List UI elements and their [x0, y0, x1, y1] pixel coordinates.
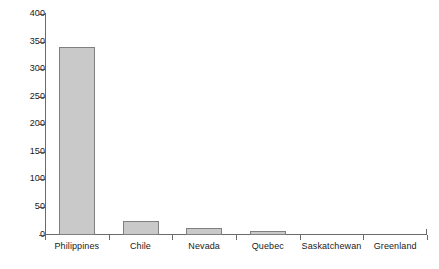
plot-area — [45, 14, 427, 235]
y-axis-tick-label: 0 — [11, 230, 45, 239]
x-axis-tick-label: Quebec — [236, 242, 300, 251]
y-axis-tick-label: 350 — [11, 37, 45, 46]
x-axis-tick-label: Saskatchewan — [300, 242, 364, 251]
bar-chart: 050100150200250300350400 PhilippinesChil… — [0, 0, 439, 269]
x-axis-tick — [236, 235, 237, 240]
x-axis-tick — [300, 235, 301, 240]
y-axis-tick-label: 250 — [11, 92, 45, 101]
x-axis-tick — [363, 235, 364, 240]
bar — [250, 231, 286, 234]
y-axis-tick-label: 200 — [11, 119, 45, 128]
x-axis-tick-label: Nevada — [172, 242, 236, 251]
y-axis-tick-label: 150 — [11, 147, 45, 156]
bar — [123, 221, 159, 234]
x-axis-tick — [109, 235, 110, 240]
y-axis-tick-label: 50 — [11, 202, 45, 211]
y-axis-tick-label: 100 — [11, 174, 45, 183]
y-axis-tick-label: 300 — [11, 64, 45, 73]
x-axis-tick-label: Chile — [109, 242, 173, 251]
x-axis-tick-label: Greenland — [363, 242, 427, 251]
x-axis-tick — [45, 235, 46, 240]
bar — [186, 228, 222, 234]
x-axis-tick-label: Philippines — [45, 242, 109, 251]
bar — [59, 47, 95, 234]
x-axis-tick — [172, 235, 173, 240]
y-axis-tick-label: 400 — [11, 9, 45, 18]
x-axis-tick — [427, 235, 428, 240]
